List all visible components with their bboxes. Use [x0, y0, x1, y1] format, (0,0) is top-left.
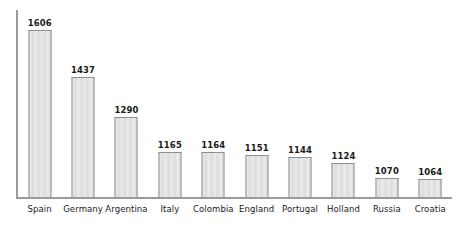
bar-group: 1165 [148, 10, 191, 197]
bar[interactable] [245, 155, 268, 197]
bar-group: 1164 [192, 10, 235, 197]
bar-value-label: 1606 [28, 18, 52, 28]
bar-group: 1437 [61, 10, 104, 197]
bar-value-label: 1165 [158, 140, 182, 150]
bar-value-label: 1151 [245, 143, 269, 153]
bar[interactable] [419, 179, 442, 197]
bar-group: 1070 [365, 10, 408, 197]
category-label: Colombia [192, 204, 235, 214]
bar-group: 1064 [409, 10, 452, 197]
bar-group: 1144 [278, 10, 321, 197]
plot-area: 1606143712901165116411511144112410701064 [18, 10, 452, 197]
bar-value-label: 1070 [375, 166, 399, 176]
bar-chart: 1606143712901165116411511144112410701064… [0, 0, 459, 232]
bar[interactable] [332, 163, 355, 197]
bar[interactable] [115, 117, 138, 197]
category-label: England [235, 204, 278, 214]
category-label: Spain [18, 204, 61, 214]
bar[interactable] [158, 152, 181, 197]
bar[interactable] [72, 77, 95, 197]
category-label: Argentina [105, 204, 148, 214]
x-axis-line [16, 197, 452, 199]
bar-value-label: 1124 [331, 151, 355, 161]
category-label: Croatia [409, 204, 452, 214]
category-axis-labels: SpainGermanyArgentinaItalyColombiaEnglan… [18, 204, 452, 224]
bar-group: 1606 [18, 10, 61, 197]
category-label: Holland [322, 204, 365, 214]
bar[interactable] [202, 152, 225, 197]
category-label: Russia [365, 204, 408, 214]
bar[interactable] [375, 178, 398, 197]
bar-value-label: 1164 [201, 140, 225, 150]
bar-value-label: 1437 [71, 65, 95, 75]
bar-group: 1290 [105, 10, 148, 197]
bar[interactable] [28, 30, 51, 197]
bar-group: 1151 [235, 10, 278, 197]
category-label: Germany [61, 204, 104, 214]
bar[interactable] [289, 157, 312, 197]
bar-group: 1124 [322, 10, 365, 197]
bar-value-label: 1144 [288, 145, 312, 155]
category-label: Italy [148, 204, 191, 214]
category-label: Portugal [278, 204, 321, 214]
bar-value-label: 1064 [418, 167, 442, 177]
bar-value-label: 1290 [114, 105, 138, 115]
